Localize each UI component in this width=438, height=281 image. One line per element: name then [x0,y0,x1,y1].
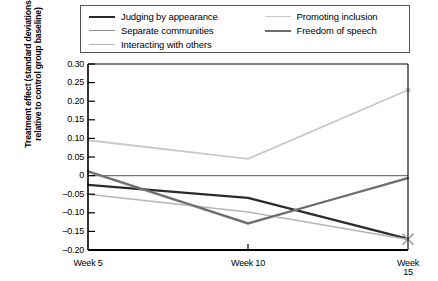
series-lines [88,90,408,240]
line-chart-svg [88,64,408,250]
x-tick-label: Week 15 [393,259,423,277]
x-tick-label: Week 10 [231,259,265,268]
series-line-interacting-with-others [88,194,408,239]
x-tick-label: Week 5 [73,259,102,268]
plot-area [88,64,408,250]
series-line-promoting-inclusion [88,90,408,159]
axis-lines [88,64,408,250]
axis-tick-marks [88,64,248,250]
chart-figure: Judging by appearance Separate communiti… [0,0,438,281]
